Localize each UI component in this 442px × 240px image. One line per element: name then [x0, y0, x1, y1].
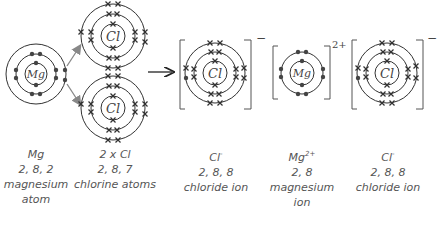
chloride-right-symbol: Cl — [380, 66, 394, 81]
transfer-arrow-down — [67, 84, 80, 104]
mg-ion-name-2: ion — [266, 195, 338, 208]
chloride-right-formula: Cl- — [350, 147, 426, 165]
mg-ion-label: Mg2+ 2, 8 magnesium ion — [266, 147, 338, 208]
mg-ion-config: 2, 8 — [266, 165, 338, 180]
cl-atom-top-symbol: Cl — [106, 29, 120, 44]
cl-atoms-label: 2 x Cl 2, 8, 7 chlorine atoms — [72, 147, 158, 192]
cl-atoms-formula: 2 x Cl — [72, 147, 158, 162]
mg-atom-config: 2, 8, 2 — [0, 162, 72, 177]
mg-atom-symbol: Mg — [26, 68, 45, 81]
chloride-left-formula: Cl- — [180, 147, 252, 165]
chloride-left-name: chloride ion — [180, 180, 252, 195]
mg-ion-name: magnesium — [266, 180, 338, 195]
mg-atom-label: Mg 2, 8, 2 magnesium atom — [0, 147, 72, 207]
chloride-left-config: 2, 8, 8 — [180, 165, 252, 180]
mg-ion-symbol: Mg — [292, 67, 311, 80]
chloride-right-charge: − — [427, 31, 437, 45]
chloride-right-label: Cl- 2, 8, 8 chloride ion — [350, 147, 426, 195]
chloride-left-label: Cl- 2, 8, 8 chloride ion — [180, 147, 252, 195]
mg-ion-formula: Mg2+ — [266, 147, 338, 165]
chloride-right-name: chloride ion — [350, 180, 426, 195]
mg-atom-name: magnesium — [0, 177, 72, 192]
chloride-left-symbol: Cl — [208, 66, 222, 81]
transfer-arrow-up — [67, 46, 80, 66]
mg-ion-charge: 2+ — [332, 39, 347, 50]
chloride-left-charge: − — [256, 31, 266, 45]
chloride-right-config: 2, 8, 8 — [350, 165, 426, 180]
mg-atom-formula: Mg — [0, 147, 72, 162]
cl-atom-bottom-symbol: Cl — [106, 101, 120, 116]
cl-atoms-config: 2, 8, 7 — [72, 162, 158, 177]
cl-atoms-name: chlorine atoms — [72, 177, 158, 192]
mg-atom-name-2: atom — [0, 192, 72, 207]
